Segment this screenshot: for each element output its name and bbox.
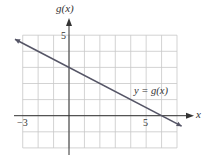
x-axis-label: x [196, 109, 201, 120]
x-tick-label-5: 5 [143, 118, 148, 128]
y-axis-label: g(x) [56, 3, 74, 14]
curve-label: y = g(x) [134, 86, 168, 97]
y-tick-label-5: 5 [61, 31, 66, 41]
line-chart [0, 0, 212, 159]
data-series [15, 39, 182, 126]
x-tick-label-neg3: −3 [17, 118, 28, 128]
